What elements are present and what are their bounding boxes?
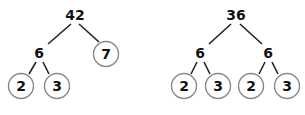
node-prime-3: 3 xyxy=(213,78,223,94)
node-root-36: 36 xyxy=(226,7,245,23)
edge-36-6-left xyxy=(209,24,231,44)
factor-tree-36: 36 6 6 2 3 2 3 xyxy=(172,7,300,99)
edge-6-2-left xyxy=(191,62,197,74)
node-prime-7: 7 xyxy=(101,46,111,62)
edge-6-3 xyxy=(43,62,49,74)
node-6-right: 6 xyxy=(263,45,273,61)
edge-6-2 xyxy=(29,62,36,74)
node-prime-3: 3 xyxy=(52,78,62,94)
edge-6-2-right xyxy=(259,62,265,74)
edge-42-6 xyxy=(48,24,71,44)
edge-6-3-right xyxy=(272,62,278,74)
node-root-42: 42 xyxy=(65,7,84,23)
factor-trees: 42 6 7 2 3 36 6 6 2 3 2 3 xyxy=(0,0,305,115)
edge-36-6-right xyxy=(240,24,262,44)
edge-6-3-left xyxy=(204,62,210,74)
node-prime-3: 3 xyxy=(282,78,292,94)
edge-42-7 xyxy=(79,24,99,42)
factor-tree-42: 42 6 7 2 3 xyxy=(9,7,119,99)
node-prime-2: 2 xyxy=(246,78,256,94)
node-prime-2: 2 xyxy=(179,78,189,94)
node-6-left: 6 xyxy=(195,45,205,61)
node-6: 6 xyxy=(34,45,44,61)
node-prime-2: 2 xyxy=(16,78,26,94)
